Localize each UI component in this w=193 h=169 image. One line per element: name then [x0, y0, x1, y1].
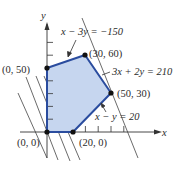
vertex-label-0-0: (0, 0) — [17, 137, 40, 149]
pointer-arrowhead-icon — [68, 52, 72, 58]
vertex-label-50-30: (50, 30) — [117, 88, 151, 100]
x-axis-label: x — [161, 127, 167, 138]
vertex-0-0 — [44, 129, 49, 134]
pointer-arrowhead-icon — [101, 103, 105, 108]
vertex-0-50 — [44, 65, 49, 70]
feasible-region-diagram: y x (0, 0) (20, 0) (50, 30) (30, 60) (0,… — [0, 0, 193, 169]
level-line-1 — [18, 93, 47, 158]
y-axis-arrow-icon — [45, 22, 50, 30]
pointer-3x-plus-2y — [102, 72, 110, 75]
vertex-label-20-0: (20, 0) — [79, 137, 107, 149]
vertex-20-0 — [70, 129, 75, 134]
vertex-label-30-60: (30, 60) — [89, 48, 123, 60]
x-axis-arrow-icon — [154, 130, 162, 135]
constraint-label-x-minus-y: x − y = 20 — [94, 111, 140, 122]
vertex-50-30 — [108, 90, 113, 95]
x-axis-ticks — [85, 126, 123, 132]
vertex-30-60 — [82, 52, 87, 57]
y-axis-label: y — [40, 10, 46, 21]
constraint-label-3x-plus-2y: 3x + 2y = 210 — [111, 66, 173, 77]
vertex-label-0-50: (0, 50) — [2, 64, 30, 76]
constraint-label-x-minus-3y: x − 3y = −150 — [60, 26, 124, 37]
